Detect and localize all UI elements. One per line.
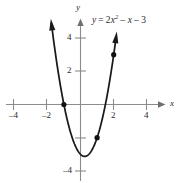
- equation-term-3: – 3: [134, 15, 146, 25]
- data-point: [111, 52, 116, 57]
- parabola-curve: [49, 19, 118, 157]
- equation-term-2: – x: [120, 15, 132, 25]
- x-tick-label-neg4: –4: [9, 111, 18, 120]
- curve-left-arrow-icon: [49, 19, 55, 31]
- y-tick-label-pos2: 2: [67, 66, 72, 75]
- curve-path: [51, 24, 116, 157]
- y-axis-arrow-icon: [77, 19, 83, 27]
- x-axis-arrow-icon: [158, 101, 166, 107]
- equation-exponent: 2: [115, 13, 118, 20]
- x-axis: [6, 99, 166, 110]
- equation-annotation: y=2x2– x– 3: [92, 14, 146, 26]
- x-tick-label-neg2: –2: [42, 111, 51, 120]
- equation-equals: =: [98, 15, 103, 25]
- curve-right-arrow-icon: [112, 32, 118, 44]
- y-axis-label: y: [76, 3, 80, 12]
- x-tick-label-pos2: 2: [111, 111, 116, 120]
- x-axis-label: x: [170, 99, 174, 108]
- y-tick-label-pos4: 4: [67, 33, 72, 42]
- data-point: [95, 135, 100, 140]
- y-tick-label-neg4: –4: [63, 166, 72, 175]
- x-tick-label-pos4: 4: [144, 111, 149, 120]
- equation-lhs: y: [92, 15, 96, 25]
- graph-figure: –4 –2 2 4 4 2 –4 y x y=2x2– x– 3: [0, 0, 182, 183]
- parabola-plot: [0, 0, 182, 183]
- data-point: [61, 102, 66, 107]
